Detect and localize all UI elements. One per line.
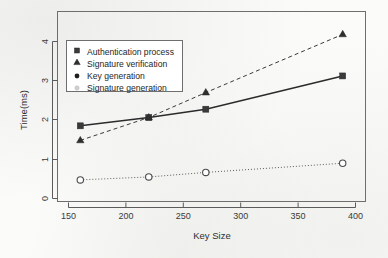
y-axis-title: Time(ms) xyxy=(18,90,29,130)
series-3-point-1 xyxy=(146,174,152,180)
chart-figure: 4 3 2 1 0 Time(ms) 150 200 250 300 350 4… xyxy=(0,0,388,258)
y-axis: 4 3 2 1 0 Time(ms) xyxy=(18,39,58,201)
series-0-point-3 xyxy=(340,73,346,79)
legend-label-2: Key generation xyxy=(87,71,145,81)
x-tick-label-200: 200 xyxy=(118,211,133,221)
series-3-point-3 xyxy=(339,160,345,166)
series-0-point-0 xyxy=(77,123,83,129)
legend-label-1: Signature verification xyxy=(87,59,167,69)
series-0-point-2 xyxy=(203,106,209,112)
x-axis-title: Key Size xyxy=(193,230,231,241)
legend-label-0: Authentication process xyxy=(87,47,174,57)
series-3-point-0 xyxy=(77,177,83,183)
x-tick-label-250: 250 xyxy=(176,211,191,221)
x-tick-label-150: 150 xyxy=(61,211,76,221)
y-tick-label-1: 1 xyxy=(40,157,50,162)
series-3-point-2 xyxy=(203,169,209,175)
x-axis: 150 200 250 300 350 400 Key Size xyxy=(61,203,363,242)
y-tick-label-2: 2 xyxy=(40,117,50,122)
x-tick-label-300: 300 xyxy=(233,211,248,221)
x-tick-label-350: 350 xyxy=(291,211,306,221)
series-3 xyxy=(77,160,346,183)
y-tick-label-3: 3 xyxy=(40,78,50,83)
legend-marker-filled-circle-icon xyxy=(75,74,80,79)
series-1-point-2 xyxy=(202,89,209,95)
y-tick-label-0: 0 xyxy=(40,196,50,201)
x-tick-label-400: 400 xyxy=(348,211,363,221)
y-tick-label-4: 4 xyxy=(40,39,50,44)
chart-legend: Authentication process Signature verific… xyxy=(67,41,183,93)
series-1-point-3 xyxy=(339,30,346,36)
series-3-line xyxy=(80,163,342,180)
line-chart-svg: 4 3 2 1 0 Time(ms) 150 200 250 300 350 4… xyxy=(0,0,388,258)
legend-marker-filled-square-icon xyxy=(75,48,80,53)
legend-marker-open-circle-icon xyxy=(75,86,79,90)
legend-label-3: Signature generation xyxy=(87,83,167,93)
